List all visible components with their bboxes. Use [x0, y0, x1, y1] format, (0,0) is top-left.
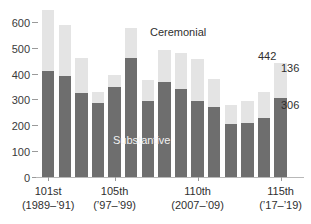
y-axis-tick-label: 100: [12, 146, 30, 158]
bar-segment-ceremonial: [142, 80, 154, 101]
bar-segment-substantive: [108, 87, 120, 177]
x-axis-tick-mark: [281, 177, 282, 181]
bar-segment-ceremonial: [125, 28, 137, 58]
bar-segment-ceremonial: [258, 92, 270, 117]
bar-segment-ceremonial: [225, 105, 237, 124]
x-axis-group-label: 105th(’97–’99): [75, 184, 155, 212]
x-axis-tick-mark: [115, 177, 116, 181]
bar-segment-substantive: [158, 82, 170, 177]
bar-segment-ceremonial: [175, 53, 187, 89]
y-axis-tick: 400: [12, 68, 38, 80]
bar-segment-substantive: [92, 103, 104, 177]
bar: [191, 59, 203, 177]
annotation-ceremonial-value: 136: [281, 62, 299, 74]
y-axis: 0100200300400500600: [0, 0, 38, 190]
y-axis-tick: 300: [12, 94, 38, 106]
bar-segment-substantive: [208, 107, 220, 177]
bar: [258, 92, 270, 177]
bar-segment-ceremonial: [108, 75, 120, 87]
bar: [92, 92, 104, 177]
bar-segment-ceremonial: [158, 50, 170, 83]
y-axis-tick-label: 400: [12, 69, 30, 81]
bar-segment-substantive: [241, 123, 253, 177]
bar-segment-ceremonial: [59, 25, 71, 76]
x-axis-years-label: (2007–’09): [158, 198, 238, 212]
bar: [208, 79, 220, 177]
bar: [142, 80, 154, 177]
bar-segment-ceremonial: [75, 58, 87, 94]
y-axis-tick-label: 600: [12, 17, 30, 29]
bar-segment-substantive: [125, 58, 137, 177]
x-axis-years-label: (’17–’19): [241, 198, 311, 212]
y-axis-tick-label: 200: [12, 120, 30, 132]
bar-segment-ceremonial: [241, 101, 253, 123]
annotation-total-value: 442: [258, 50, 276, 62]
bar: [241, 101, 253, 177]
bar: [75, 58, 87, 177]
series-label-ceremonial: Ceremonial: [150, 26, 206, 38]
bar-segment-substantive: [75, 93, 87, 177]
bar-segment-substantive: [225, 124, 237, 177]
bar: [59, 25, 71, 177]
bar: [274, 63, 286, 177]
bar-segment-substantive: [258, 118, 270, 177]
bar-segment-substantive: [175, 89, 187, 177]
bar-segment-ceremonial: [208, 79, 220, 107]
bar: [125, 28, 137, 177]
bar-segment-ceremonial: [191, 59, 203, 101]
bar-segment-substantive: [42, 71, 54, 177]
bar-segment-ceremonial: [42, 10, 54, 71]
bar: [225, 105, 237, 177]
x-axis-congress-label: 105th: [75, 184, 155, 198]
bar: [175, 53, 187, 177]
bar: [158, 50, 170, 177]
annotation-substantive-value: 306: [281, 99, 299, 111]
bar: [42, 10, 54, 177]
y-axis-tick-label: 0: [24, 172, 30, 184]
y-axis-tick: 500: [12, 42, 38, 54]
x-axis-tick-mark: [198, 177, 199, 181]
bar-segment-substantive: [191, 101, 203, 177]
y-axis-tick: 200: [12, 119, 38, 131]
y-axis-tick-label: 300: [12, 94, 30, 106]
bar-segment-substantive: [59, 76, 71, 177]
y-axis-tick: 100: [12, 145, 38, 157]
bar: [108, 75, 120, 177]
series-label-substantive: Substantive: [113, 134, 170, 146]
x-axis-years-label: (’97–’99): [75, 198, 155, 212]
bar-segment-ceremonial: [92, 92, 104, 103]
x-axis-tick-mark: [48, 177, 49, 181]
x-axis-congress-label: 115th: [241, 184, 311, 198]
x-axis-group-label: 115th(’17–’19): [241, 184, 311, 212]
stacked-bar-chart: 0100200300400500600 Ceremonial Substanti…: [0, 0, 311, 224]
y-axis-tick-label: 500: [12, 43, 30, 55]
y-axis-tick: 600: [12, 16, 38, 28]
x-axis-group-label: 110th(2007–’09): [158, 184, 238, 212]
x-axis-congress-label: 110th: [158, 184, 238, 198]
